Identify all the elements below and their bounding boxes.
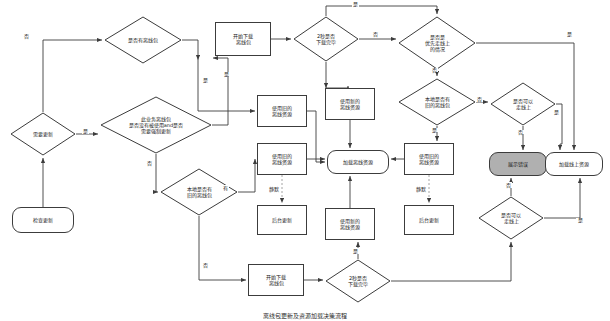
node-can-go-online-1[interactable]: 是否可以 走线上 <box>490 82 556 126</box>
node-label: 此业务离线包 是否没有被使用and是否 需要强制更新 <box>107 116 205 135</box>
node-download-done-top[interactable]: 2秒是否 下载完毕 <box>293 16 359 62</box>
node-local-has-old[interactable]: 本地是否有 旧的离线包 <box>160 168 238 216</box>
node-can-go-online-2[interactable]: 是否可以 走线上 <box>478 196 544 240</box>
edge-label-silent-2: 静默 <box>415 186 427 192</box>
node-label: 是否可以 走线上 <box>490 98 556 110</box>
node-label: 检查更新 <box>33 217 53 223</box>
node-start[interactable]: 检查更新 <box>12 207 74 233</box>
node-label: 使用旧的 离线资源 <box>419 153 439 165</box>
edge-label-can-online-1-yes: 是 <box>552 110 560 114</box>
edge-label-prefer-online-no: 否 <box>430 68 438 72</box>
edge-label-download-top-no: 否 <box>372 31 379 37</box>
node-download-done-bottom[interactable]: 2秒是否 下载完毕 <box>325 259 391 303</box>
node-label: 需要更新 <box>10 131 76 137</box>
node-label: 使用旧的 离线资源 <box>272 153 292 165</box>
node-background-update-1[interactable]: 后台更新 <box>257 205 307 235</box>
node-label: 本地是否有 旧的离线包 <box>398 96 476 108</box>
node-need-update[interactable]: 需要更新 <box>10 112 76 156</box>
node-has-old-local[interactable]: 本地是否有 旧的离线包 <box>398 78 476 126</box>
edge-label-business-no: 否 <box>146 160 153 166</box>
edge-label-need-update-yes: 是 <box>82 128 89 134</box>
node-label: 开始下载 离线包 <box>233 33 253 45</box>
node-label: 加载线上资源 <box>559 161 589 167</box>
edge-label-local-no: 否 <box>202 262 209 268</box>
diagram-caption: 离线包更新及资源加载决策流程 <box>0 311 610 320</box>
edge-label-download-top-yes: 是 <box>352 1 359 7</box>
node-label: 开始下载 离线包 <box>266 274 286 286</box>
node-label: 使用旧的 离线资源 <box>272 105 292 117</box>
node-start-download-top[interactable]: 开始下载 离线包 <box>215 22 271 56</box>
node-label: 使用新的 离线资源 <box>340 98 360 110</box>
node-label: 使用新的 离线资源 <box>340 218 360 230</box>
node-label: 2秒是否 下载完毕 <box>293 33 359 45</box>
edge-label-download-bottom-yes: 是 <box>352 248 359 254</box>
edge-label-business-yes: 是 <box>222 72 230 76</box>
edge-label-has-old-yes: 是 <box>430 128 438 132</box>
edge-label-silent-1: 静默 <box>268 186 280 192</box>
node-prefer-online[interactable]: 是否是 优先走线上 的情况 <box>398 16 476 70</box>
flowchart-canvas: 检查更新 需要更新 是否有离线包 此业务离线包 是否没有被使用and是否 需要强… <box>0 0 610 321</box>
node-label: 后台更新 <box>272 217 292 223</box>
edge-label-can-online-1-no: 否 <box>516 130 524 134</box>
node-use-old-resource-3[interactable]: 使用旧的 离线资源 <box>404 143 454 175</box>
node-label: 后台更新 <box>419 217 439 223</box>
node-label: 加载离线资源 <box>343 159 373 165</box>
node-label: 是否可以 走线上 <box>478 212 544 224</box>
node-label: 是否有离线包 <box>104 37 182 43</box>
node-use-old-resource-2[interactable]: 使用旧的 离线资源 <box>257 143 307 175</box>
node-use-old-resource-1[interactable]: 使用旧的 离线资源 <box>257 95 307 127</box>
edge-label-need-update-no: 否 <box>23 33 30 39</box>
node-label: 是否是 优先走线上 的情况 <box>398 34 476 53</box>
node-label: 本地是否有 旧的离线包 <box>160 186 238 198</box>
edge-label-has-package-yes: 是 <box>201 78 209 82</box>
node-load-offline-resource[interactable]: 加载离线资源 <box>327 150 389 174</box>
edge-label-prefer-online-yes: 是 <box>566 31 573 37</box>
node-business-check[interactable]: 此业务离线包 是否没有被使用and是否 需要强制更新 <box>100 96 212 154</box>
node-load-online-resource[interactable]: 加载线上资源 <box>545 152 603 176</box>
edge-label-can-online-2-yes: 是 <box>576 218 584 222</box>
node-use-new-resource-1[interactable]: 使用新的 离线资源 <box>325 88 375 120</box>
edge-label-has-old-no: 否 <box>476 96 483 102</box>
node-label: 展示错误 <box>508 161 528 167</box>
node-has-package[interactable]: 是否有离线包 <box>104 16 182 64</box>
node-show-error[interactable]: 展示错误 <box>489 152 547 176</box>
node-use-new-resource-2[interactable]: 使用新的 离线资源 <box>325 208 375 240</box>
node-label: 2秒是否 下载完毕 <box>325 275 391 287</box>
node-start-download-bottom[interactable]: 开始下载 离线包 <box>248 264 304 296</box>
node-background-update-2[interactable]: 后台更新 <box>404 205 454 235</box>
edge-label-can-online-2-no: 否 <box>505 182 512 188</box>
